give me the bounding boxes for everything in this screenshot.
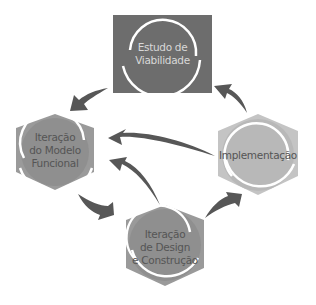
label-viabilidade: Estudo de Viabilidade bbox=[113, 41, 212, 67]
label-line: Estudo de bbox=[113, 41, 212, 54]
label-implementacao: Implementação bbox=[212, 149, 304, 162]
label-line: Viabilidade bbox=[113, 54, 212, 67]
label-modelo: Iteração do Modelo Funcional bbox=[10, 131, 100, 170]
label-line: Implementação bbox=[212, 149, 304, 162]
label-line: Funcional bbox=[10, 157, 100, 170]
arrow-implementacao-to-viabilidade-icon bbox=[214, 84, 247, 113]
arrow-viabilidade-to-modelo-icon bbox=[70, 88, 108, 111]
arrow-design-to-implementacao-icon bbox=[205, 192, 242, 218]
label-line: Iteração bbox=[10, 131, 100, 144]
arrow-design-to-modelo-icon bbox=[109, 157, 160, 205]
label-design: Iteração de Design e Construção bbox=[120, 228, 210, 267]
label-line: do Modelo bbox=[10, 144, 100, 157]
label-line: de Design bbox=[120, 241, 210, 254]
arrow-modelo-to-design-icon bbox=[78, 194, 114, 220]
label-line: e Construção bbox=[120, 254, 210, 267]
label-line: Iteração bbox=[120, 228, 210, 241]
arrow-implementacao-to-modelo-icon bbox=[108, 129, 215, 156]
